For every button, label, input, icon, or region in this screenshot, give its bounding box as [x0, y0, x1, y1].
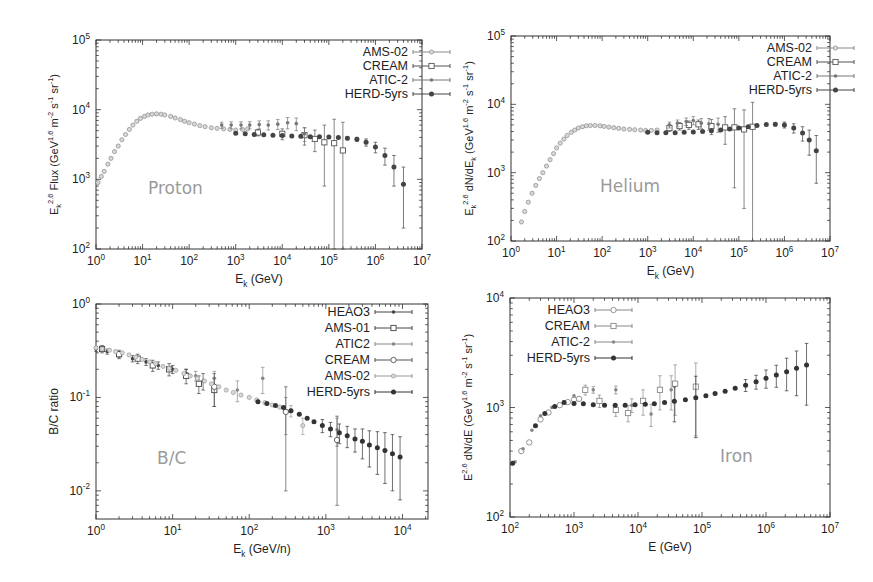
data-point: [360, 439, 365, 444]
legend-label: CREAM: [545, 319, 590, 333]
data-point: [588, 123, 592, 127]
data-point: [791, 126, 796, 131]
data-point: [584, 124, 588, 128]
data-point: [94, 346, 98, 350]
data-point: [652, 401, 657, 406]
data-point: [572, 394, 576, 398]
data-point: [229, 123, 233, 127]
data-point: [804, 362, 809, 367]
data-point: [127, 353, 131, 357]
data-point: [281, 405, 286, 410]
tick-label: 105: [487, 28, 505, 43]
data-point: [627, 127, 631, 131]
data-point: [375, 445, 380, 450]
data-point: [643, 402, 648, 407]
y-axis-label: E2.6 dN/dE (GeV1.6 m-2 s-1 sr-1): [460, 334, 474, 481]
legend-item: AMS-02: [325, 369, 412, 383]
data-point: [169, 114, 173, 118]
data-point: [276, 122, 280, 126]
data-point: [252, 132, 257, 137]
data-point: [672, 399, 677, 404]
data-point: [337, 430, 342, 435]
data-point: [774, 373, 779, 378]
tick-label: 100: [87, 253, 105, 268]
tick-label: 102: [593, 245, 611, 260]
data-point: [565, 133, 569, 137]
data-point: [611, 323, 616, 328]
data-point: [716, 123, 720, 127]
data-point: [530, 428, 534, 432]
data-point: [613, 403, 618, 408]
tick-label: 101: [134, 253, 152, 268]
data-point: [305, 416, 310, 421]
data-point: [183, 119, 187, 123]
legend-label: CREAM: [767, 55, 812, 69]
data-point: [684, 120, 688, 124]
tick-label: 102: [180, 253, 198, 268]
data-point: [572, 401, 577, 406]
data-point: [392, 342, 396, 346]
data-point: [833, 59, 838, 64]
data-point: [554, 146, 558, 150]
data-point: [746, 124, 751, 129]
data-point: [233, 131, 238, 136]
data-point: [280, 133, 285, 138]
data-point: [581, 401, 586, 406]
legend-item: ATIC2: [336, 337, 413, 351]
data-point: [673, 130, 678, 135]
data-point: [794, 366, 799, 371]
data-point: [668, 123, 672, 127]
legend-item: CREAM: [767, 55, 854, 69]
data-point: [178, 118, 182, 122]
data-point: [602, 403, 607, 408]
legend-item: HERD-5yrs: [307, 385, 412, 399]
data-point: [764, 376, 769, 381]
data-point: [134, 355, 138, 359]
legend-item: HERD-5yrs: [527, 351, 632, 365]
tick-label: 103: [565, 521, 583, 536]
data-point: [526, 200, 530, 204]
legend-item: AMS-02: [363, 45, 450, 59]
data-point: [154, 112, 158, 116]
data-point: [266, 123, 270, 127]
legend-label: HERD-5yrs: [345, 87, 408, 101]
legend-item: ATIC-2: [551, 335, 632, 349]
data-point: [109, 156, 113, 160]
data-point: [693, 395, 698, 400]
legend-label: AMS-01: [325, 321, 370, 335]
data-point: [429, 92, 434, 97]
series-heao3: [94, 347, 205, 390]
data-point: [328, 426, 333, 431]
data-point: [364, 140, 369, 145]
data-point: [236, 388, 240, 392]
data-point: [551, 152, 555, 156]
data-point: [764, 122, 769, 127]
data-point: [334, 437, 339, 442]
data-point: [239, 123, 243, 127]
data-point: [834, 74, 838, 78]
data-point: [187, 121, 191, 125]
data-point: [391, 165, 396, 170]
legend-label: HERD-5yrs: [749, 83, 812, 97]
series-ams-02: [519, 123, 659, 224]
data-point: [297, 412, 302, 417]
data-point: [429, 63, 434, 68]
data-point: [150, 112, 154, 116]
data-point: [723, 389, 728, 394]
data-point: [295, 122, 299, 126]
data-point: [613, 407, 618, 412]
data-point: [612, 126, 616, 130]
data-point: [533, 423, 538, 428]
data-point: [286, 121, 290, 125]
data-point: [537, 176, 541, 180]
data-point: [611, 356, 616, 361]
data-point: [662, 400, 667, 405]
data-point: [317, 134, 322, 139]
series-ams-02: [94, 346, 305, 435]
legend-item: CREAM: [545, 319, 632, 333]
data-point: [800, 131, 805, 136]
y-axis-label: B/C ratio: [47, 388, 61, 435]
data-point: [224, 388, 228, 392]
data-point: [807, 138, 812, 143]
series-cream: [667, 102, 755, 241]
